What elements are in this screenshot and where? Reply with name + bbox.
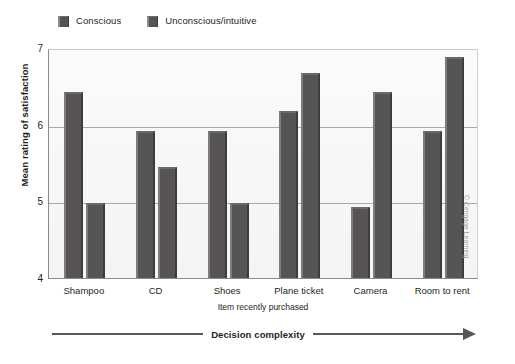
x-axis-ticks: ShampooCDShoesPlane ticketCameraRoom to … [48, 285, 478, 299]
y-axis-tick-label: 4 [3, 274, 43, 284]
bar [445, 57, 464, 278]
y-axis-tick-label: 7 [3, 44, 43, 54]
y-axis-tick-label: 6 [3, 121, 43, 131]
chart-legend: Conscious Unconscious/intuitive [58, 12, 257, 30]
bar [86, 203, 105, 278]
bar [373, 92, 392, 278]
arrow-line-left [52, 333, 203, 335]
bar [208, 131, 227, 278]
x-axis-tick-label: Room to rent [382, 285, 502, 296]
x-axis-title: Item recently purchased [48, 302, 478, 312]
copyright-credit: © Cengage Learning [462, 195, 470, 259]
legend-entry-unconscious: Unconscious/intuitive [147, 16, 256, 27]
bar [230, 203, 249, 278]
arrow-head-icon [463, 328, 476, 340]
bar-series-container [49, 50, 477, 278]
legend-swatch-icon [58, 16, 69, 27]
plot-area [48, 49, 478, 279]
bar [136, 131, 155, 278]
y-axis-ticks: 4567 [0, 49, 43, 279]
legend-label-conscious: Conscious [76, 16, 121, 26]
bar [423, 131, 442, 278]
bar [279, 111, 298, 278]
decision-complexity-label: Decision complexity [203, 329, 313, 340]
bar [351, 207, 370, 278]
y-axis-tick-label: 5 [3, 197, 43, 207]
legend-label-unconscious: Unconscious/intuitive [165, 16, 256, 26]
bar [301, 73, 320, 278]
arrow-line-right [313, 333, 464, 335]
bar [158, 167, 177, 278]
bar-chart-figure: Conscious Unconscious/intuitive Mean rat… [0, 0, 515, 364]
legend-swatch-icon [147, 16, 158, 27]
decision-complexity-annotation: Decision complexity [52, 324, 476, 344]
bar [64, 92, 83, 278]
legend-entry-conscious: Conscious [58, 16, 121, 27]
